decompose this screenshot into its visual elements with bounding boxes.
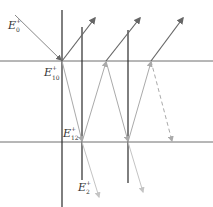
incident-ray	[15, 15, 61, 60]
reflected-ray-2	[106, 18, 140, 61]
svg-text:E: E	[77, 181, 86, 194]
label-incident: E + 0	[7, 17, 21, 33]
svg-text:+: +	[52, 64, 57, 71]
svg-text:0: 0	[16, 26, 20, 33]
transmitted-ray-2	[128, 142, 143, 192]
internal-ray-5-dashed	[151, 61, 172, 141]
svg-text:E: E	[62, 127, 71, 140]
diagram-canvas: E + 0 E + 10 E + 12 E + 2	[0, 0, 213, 207]
svg-text:12: 12	[71, 134, 79, 141]
svg-text:2: 2	[86, 188, 90, 195]
thin-film-diagram: E + 0 E + 10 E + 12 E + 2	[0, 0, 213, 207]
label-transmitted: E + 2	[77, 179, 91, 195]
label-first-interface: E + 10	[43, 64, 60, 81]
svg-text:+: +	[71, 125, 76, 132]
svg-text:E: E	[43, 66, 52, 79]
svg-text:+: +	[16, 17, 21, 24]
svg-text:10: 10	[52, 74, 60, 81]
internal-ray-3	[106, 61, 128, 141]
svg-text:E: E	[7, 19, 16, 32]
label-second-interface: E + 12	[62, 125, 79, 141]
reflected-ray-1	[62, 18, 95, 61]
svg-text:+: +	[86, 179, 91, 186]
internal-ray-2	[82, 62, 106, 142]
internal-ray-4	[128, 62, 151, 142]
reflected-ray-3	[151, 18, 183, 61]
